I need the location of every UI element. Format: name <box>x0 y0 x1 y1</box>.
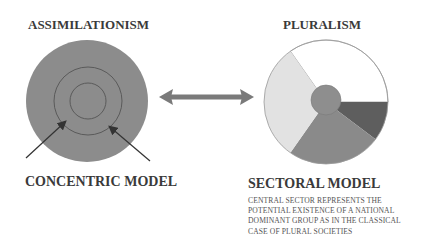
description-line: CENTRAL SECTOR REPRESENTS THE <box>248 196 401 206</box>
concentric-model-label: CONCENTRIC MODEL <box>25 174 177 190</box>
sectoral-model-label: SECTORAL MODEL <box>248 176 380 192</box>
description-line: DOMINANT GROUP AS IN THE CLASSICAL <box>248 216 401 226</box>
central-sector <box>311 85 341 115</box>
description-line: CASE OF PLURAL SOCIETIES <box>248 227 401 237</box>
double-arrow-icon <box>159 89 254 105</box>
sectoral-model <box>264 40 388 164</box>
description-line: POTENTIAL EXISTENCE OF A NATIONAL <box>248 206 401 216</box>
sectoral-description: CENTRAL SECTOR REPRESENTS THE POTENTIAL … <box>248 196 401 237</box>
